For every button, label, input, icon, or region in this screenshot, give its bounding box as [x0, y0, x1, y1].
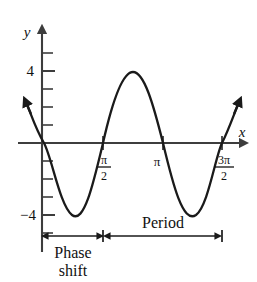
period-measure [106, 230, 222, 242]
three-pi-over-2-denominator: 2 [221, 169, 227, 183]
phase-shift-label-line2: shift [59, 262, 88, 279]
phase-shift-measure [44, 230, 103, 242]
x-tick-label-pi: π [154, 154, 161, 169]
period-label: Period [142, 214, 184, 231]
trig-graph-figure: y x 4 −4 π 2 π 3π 2 Phase shift Period [0, 0, 257, 282]
three-pi-over-2-numerator: 3π [218, 153, 230, 167]
y-tick-label-minus-4: −4 [20, 207, 36, 223]
pi-over-2-numerator: π [101, 153, 107, 167]
y-axis-label: y [22, 24, 31, 40]
phase-shift-label-line1: Phase [54, 244, 91, 261]
y-axis-group [42, 28, 55, 252]
x-axis-group [18, 136, 245, 150]
sine-curve-group [25, 72, 240, 216]
x-axis-label: x [238, 124, 246, 140]
curve-right-arrowhead [234, 100, 240, 114]
x-tick-label-3pi-over-2: 3π 2 [214, 153, 234, 183]
graph-canvas: y x 4 −4 π 2 π 3π 2 Phase shift Period [0, 0, 257, 282]
y-tick-label-4: 4 [27, 63, 35, 79]
curve-left-arrowhead [25, 100, 31, 114]
sine-curve-path [26, 72, 239, 216]
pi-over-2-denominator: 2 [101, 169, 107, 183]
